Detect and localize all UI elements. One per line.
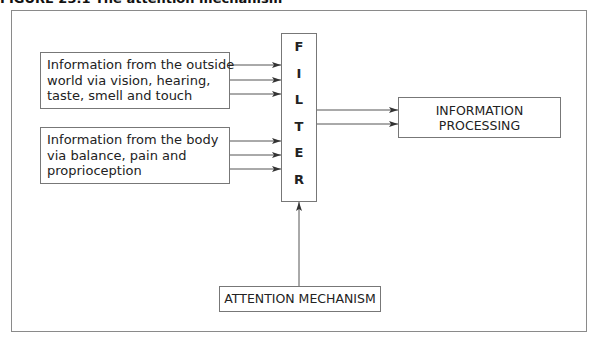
attention-mechanism-node: ATTENTION MECHANISM — [219, 286, 381, 312]
node-text-line: proprioception — [47, 163, 229, 179]
information-processing-node: INFORMATION PROCESSING — [398, 97, 561, 138]
node-text-line: PROCESSING — [399, 118, 560, 133]
node-text-line: taste, smell and touch — [47, 88, 229, 104]
filter-letter: T — [295, 119, 304, 134]
outside-world-node: Information from the outside world via v… — [40, 52, 230, 109]
node-text-line: INFORMATION — [399, 103, 560, 118]
node-text-line: Information from the outside — [47, 57, 229, 73]
filter-letter: I — [297, 66, 302, 81]
node-text-line: Information from the body — [47, 132, 229, 148]
body-node: Information from the body via balance, p… — [40, 127, 230, 184]
filter-node: F I L T E R — [281, 33, 317, 202]
node-text-line: world via vision, hearing, — [47, 73, 229, 89]
node-label: ATTENTION MECHANISM — [224, 291, 375, 306]
node-text-line: via balance, pain and — [47, 148, 229, 164]
filter-letter: L — [295, 92, 303, 107]
filter-letter: F — [295, 39, 304, 54]
filter-letter: E — [295, 145, 304, 160]
filter-letter: R — [294, 172, 304, 187]
